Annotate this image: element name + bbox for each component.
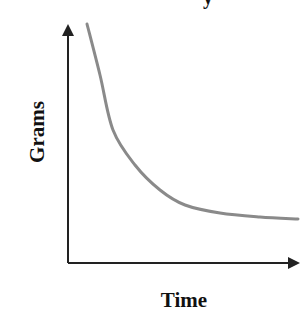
chart-plot [0, 0, 308, 330]
decay-chart: y Grams Time [0, 0, 308, 330]
y-axis-label: Grams [25, 101, 50, 163]
x-axis-label: Time [0, 288, 308, 313]
decay-curve [87, 24, 298, 219]
